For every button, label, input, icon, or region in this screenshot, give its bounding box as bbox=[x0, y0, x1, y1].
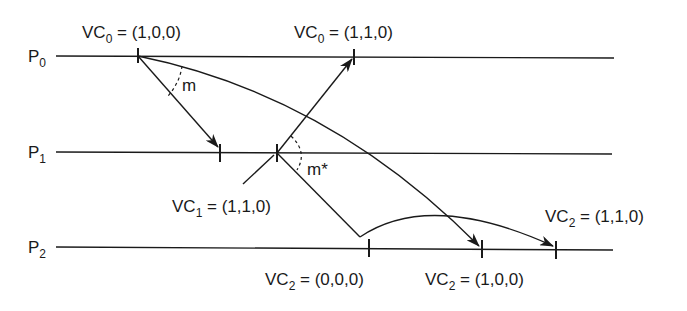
message-label-mstar: m* bbox=[307, 160, 328, 179]
message-label-m: m bbox=[182, 76, 196, 95]
message-m-arrow bbox=[138, 56, 218, 147]
vc0-label-a: VC0 = (1,0,0) bbox=[82, 23, 181, 46]
process-label-p0: P0 bbox=[28, 47, 46, 70]
vc1-label: VC1 = (1,1,0) bbox=[172, 197, 271, 220]
timeline-p2 bbox=[56, 247, 613, 250]
vc0-label-b: VC0 = (1,1,0) bbox=[294, 23, 393, 46]
process-label-p1: P1 bbox=[28, 143, 46, 166]
vc2-label-b: VC2 = (1,0,0) bbox=[425, 270, 524, 293]
vc2-label-a: VC2 = (0,0,0) bbox=[265, 270, 364, 293]
message-mstar-delivery-arrow bbox=[360, 216, 553, 246]
process-label-p2: P2 bbox=[28, 238, 46, 261]
message-p1-to-p0-arrow bbox=[277, 59, 352, 153]
vector-clock-diagram: P0 P1 P2 m m* VC0 = (1,0,0) VC0 = (1,1,0… bbox=[0, 0, 687, 311]
timeline-p1 bbox=[56, 152, 612, 154]
vc1-leader-line bbox=[243, 155, 274, 184]
vc2-label-c: VC2 = (1,1,0) bbox=[545, 207, 644, 230]
